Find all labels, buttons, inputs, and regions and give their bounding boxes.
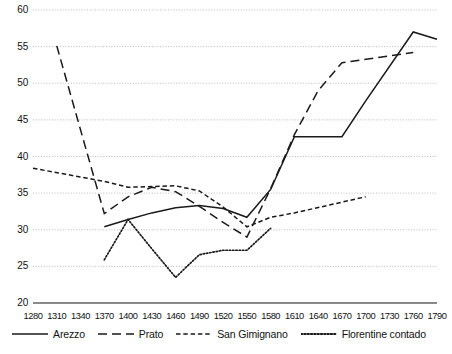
legend-swatch-solid-icon	[12, 330, 48, 338]
legend-label: San Gimignano	[217, 328, 287, 340]
data-series-line	[104, 220, 270, 278]
y-axis-tick-label: 45	[0, 115, 28, 125]
legend-swatch-long-dash-icon	[98, 330, 134, 338]
data-series-line	[57, 46, 413, 237]
y-axis-tick-label: 55	[0, 42, 28, 52]
legend-item: Florentine contado	[301, 328, 426, 340]
legend-label: Florentine contado	[342, 328, 426, 340]
legend-label: Arezzo	[53, 328, 85, 340]
data-series-line	[104, 32, 437, 227]
y-axis-tick-label: 35	[0, 188, 28, 198]
legend-item: San Gimignano	[176, 328, 287, 340]
y-axis-tick-label: 30	[0, 225, 28, 235]
y-axis-tick-label: 60	[0, 5, 28, 15]
data-series-line	[33, 168, 366, 227]
y-axis-tick-label: 40	[0, 152, 28, 162]
legend-swatch-short-dash-icon	[176, 330, 212, 338]
legend-item: Arezzo	[12, 328, 85, 340]
legend-label: Prato	[139, 328, 163, 340]
x-axis-tick-label: 1790	[421, 311, 452, 321]
y-axis-tick-label: 20	[0, 298, 28, 308]
y-axis-tick-label: 50	[0, 78, 28, 88]
legend-swatch-dotted-icon	[301, 330, 337, 338]
legend-item: Prato	[98, 328, 163, 340]
chart-legend: ArezzoPratoSan GimignanoFlorentine conta…	[0, 326, 438, 342]
y-axis-tick-label: 25	[0, 261, 28, 271]
